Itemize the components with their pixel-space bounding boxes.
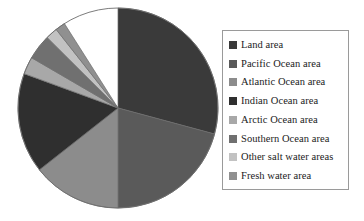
legend-item[interactable]: Other salt water areas xyxy=(229,148,344,166)
legend-swatch-icon xyxy=(229,172,237,180)
legend-swatch-icon xyxy=(229,97,237,105)
chart-legend: Land areaPacific Ocean areaAtlantic Ocea… xyxy=(222,30,349,190)
legend-swatch-icon xyxy=(229,116,237,124)
legend-item-label: Fresh water area xyxy=(241,167,311,185)
legend-swatch-icon xyxy=(229,60,237,68)
chart-canvas: Land areaPacific Ocean areaAtlantic Ocea… xyxy=(0,0,364,221)
legend-item[interactable]: Indian Ocean area xyxy=(229,92,344,110)
legend-swatch-icon xyxy=(229,153,237,161)
legend-item-label: Southern Ocean area xyxy=(241,130,329,148)
pie-slice-group xyxy=(18,8,218,208)
legend-item[interactable]: Fresh water area xyxy=(229,167,344,185)
legend-item-label: Atlantic Ocean area xyxy=(241,73,325,91)
legend-item[interactable]: Pacific Ocean area xyxy=(229,55,344,73)
legend-swatch-icon xyxy=(229,78,237,86)
legend-item[interactable]: Arctic Ocean area xyxy=(229,111,344,129)
legend-item[interactable]: Southern Ocean area xyxy=(229,130,344,148)
legend-item-label: Land area xyxy=(241,36,283,54)
legend-item-label: Arctic Ocean area xyxy=(241,111,318,129)
legend-item-label: Other salt water areas xyxy=(241,148,333,166)
legend-item[interactable]: Land area xyxy=(229,36,344,54)
legend-swatch-icon xyxy=(229,41,237,49)
legend-item-label: Pacific Ocean area xyxy=(241,55,321,73)
legend-item-label: Indian Ocean area xyxy=(241,92,318,110)
legend-swatch-icon xyxy=(229,135,237,143)
legend-item[interactable]: Atlantic Ocean area xyxy=(229,73,344,91)
